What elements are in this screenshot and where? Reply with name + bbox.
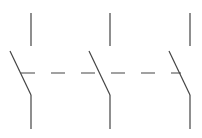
switch-poles [10,13,190,129]
three-pole-switch-diagram [0,0,202,138]
